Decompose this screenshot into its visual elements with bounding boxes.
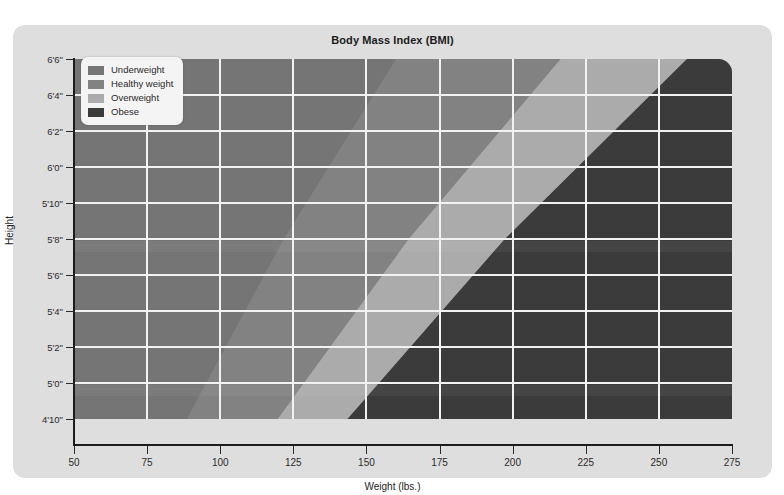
gridline-horizontal	[74, 202, 732, 204]
legend-item[interactable]: Obese	[88, 105, 173, 119]
gridline-horizontal	[74, 166, 732, 168]
chart-title: Body Mass Index (BMI)	[13, 34, 772, 46]
y-axis-tick-label: 6'2"	[15, 126, 63, 137]
row-highlight	[74, 241, 732, 252]
gridline-horizontal	[74, 238, 732, 240]
y-axis-tick-labels: 6'6"6'4"6'2"6'0"5'10"5'8"5'6"5'4"5'2"5'0…	[13, 25, 63, 478]
x-axis-tick-label: 150	[336, 457, 396, 468]
x-axis-tick	[513, 446, 514, 454]
y-axis-tick	[66, 131, 74, 132]
x-axis-tick-label: 275	[702, 457, 762, 468]
legend: UnderweightHealthy weightOverweightObese	[81, 57, 183, 125]
y-axis-tick-label: 6'4"	[15, 90, 63, 101]
x-axis-tick	[74, 446, 75, 454]
legend-item-label: Healthy weight	[111, 79, 173, 89]
y-axis-tick	[66, 275, 74, 276]
legend-item[interactable]: Overweight	[88, 91, 173, 105]
gridline-horizontal	[74, 274, 732, 276]
y-axis-tick-label: 5'2"	[15, 342, 63, 353]
x-axis-tick	[440, 446, 441, 454]
x-axis-tick	[659, 446, 660, 454]
x-axis-tick	[293, 446, 294, 454]
legend-item-label: Obese	[111, 107, 139, 117]
y-axis-tick-label: 5'8"	[15, 234, 63, 245]
y-axis-line	[73, 58, 75, 446]
y-axis-tick	[66, 311, 74, 312]
legend-item[interactable]: Underweight	[88, 63, 173, 77]
x-axis-tick-label: 100	[190, 457, 250, 468]
x-axis-tick	[147, 446, 148, 454]
y-axis-tick-label: 5'6"	[15, 270, 63, 281]
y-axis-tick	[66, 239, 74, 240]
y-axis-tick-label: 4'10"	[15, 414, 63, 425]
row-highlight	[74, 385, 732, 396]
legend-swatch-icon	[88, 108, 104, 117]
x-axis-tick-label: 250	[629, 457, 689, 468]
chart-page: Body Mass Index (BMI) 6'6"6'4"6'2"6'0"5'…	[0, 0, 784, 495]
gridline-vertical	[512, 59, 514, 419]
legend-item[interactable]: Healthy weight	[88, 77, 173, 91]
gridline-horizontal	[74, 382, 732, 384]
x-axis-line	[73, 444, 733, 446]
y-axis-tick	[66, 383, 74, 384]
y-axis-title: Height	[4, 216, 15, 245]
y-axis-tick-label: 5'4"	[15, 306, 63, 317]
y-axis-tick-label: 5'0"	[15, 378, 63, 389]
gridline-vertical	[585, 59, 587, 419]
gridline-horizontal	[74, 346, 732, 348]
x-axis-tick	[220, 446, 221, 454]
gridline-vertical	[439, 59, 441, 419]
y-axis-tick	[66, 167, 74, 168]
legend-swatch-icon	[88, 80, 104, 89]
x-axis-tick-label: 75	[117, 457, 177, 468]
x-axis-tick	[586, 446, 587, 454]
y-axis-tick	[66, 203, 74, 204]
gridline-vertical	[365, 59, 367, 419]
gridline-horizontal	[74, 310, 732, 312]
x-axis-tick-label: 200	[483, 457, 543, 468]
legend-item-label: Overweight	[111, 93, 159, 103]
x-axis-tick-label: 125	[263, 457, 323, 468]
gridline-vertical	[219, 59, 221, 419]
y-axis-tick	[66, 419, 74, 420]
legend-item-label: Underweight	[111, 65, 164, 75]
x-axis-tick	[366, 446, 367, 454]
y-axis-tick	[66, 59, 74, 60]
legend-swatch-icon	[88, 94, 104, 103]
x-axis-title: Weight (lbs.)	[13, 481, 772, 492]
y-axis-tick-label: 6'6"	[15, 54, 63, 65]
y-axis-tick	[66, 347, 74, 348]
x-axis-tick-label: 50	[44, 457, 104, 468]
x-axis-tick-label: 175	[410, 457, 470, 468]
y-axis-tick-label: 6'0"	[15, 162, 63, 173]
gridline-vertical	[292, 59, 294, 419]
gridline-vertical	[658, 59, 660, 419]
y-axis-tick	[66, 95, 74, 96]
x-axis-tick	[732, 446, 733, 454]
chart-card: Body Mass Index (BMI) 6'6"6'4"6'2"6'0"5'…	[13, 25, 772, 478]
gridline-horizontal	[74, 130, 732, 132]
x-axis-tick-label: 225	[556, 457, 616, 468]
legend-swatch-icon	[88, 66, 104, 75]
y-axis-tick-label: 5'10"	[15, 198, 63, 209]
